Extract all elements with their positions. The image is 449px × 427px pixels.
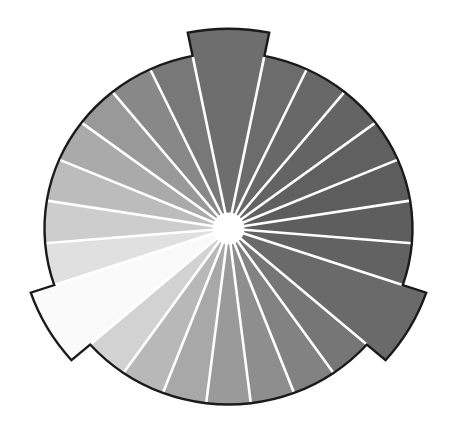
radial-wheel-diagram — [0, 0, 449, 427]
center-hub — [213, 213, 245, 245]
